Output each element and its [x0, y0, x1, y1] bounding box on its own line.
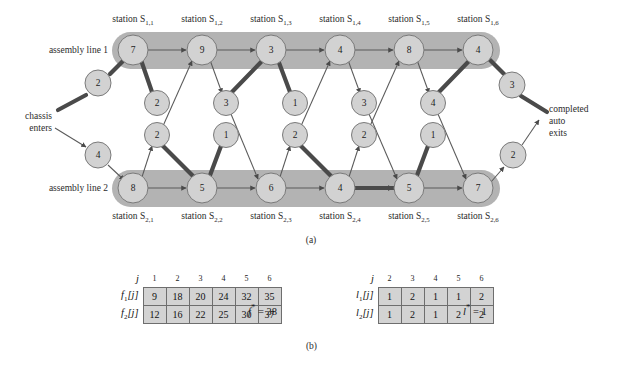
f2-cell-4: 25 [212, 305, 235, 323]
station-label-2-2: station S2,2 [181, 211, 223, 223]
l2-cell-4: 1 [424, 305, 447, 323]
f-table-header-row: j 1 2 3 4 5 6 [120, 270, 281, 287]
transfer-1to2-cost-3: 1 [293, 98, 298, 108]
l2-row-label: l2[j] [355, 305, 378, 323]
transfer-nodes-line1-to-line2: 2 3 1 3 4 [145, 91, 446, 116]
line2-station-3-time: 6 [269, 183, 274, 193]
f1-row-label: f1[j] [120, 287, 143, 305]
f-table-col-2: 2 [166, 270, 189, 287]
transfer-nodes-line2-to-line1: 2 1 2 2 1 [145, 123, 446, 148]
line1-station-3-time: 3 [269, 45, 274, 55]
f2-cell-2: 16 [166, 305, 189, 323]
transfer-2to1-cost-3: 2 [293, 130, 298, 140]
line1-station-6-time: 4 [476, 45, 481, 55]
f1-cell-3: 20 [189, 287, 212, 305]
station-label-2-3: station S2,3 [250, 211, 292, 223]
caption-a: (a) [306, 235, 317, 246]
fastest-path-highlight [58, 60, 547, 188]
line2-station-6-time: 7 [476, 183, 481, 193]
station-labels-line1: station S1,1 station S1,2 station S1,3 s… [112, 14, 499, 26]
entry-time-line2: 4 [96, 150, 101, 160]
line1-station-2-time: 9 [200, 45, 205, 55]
line2-station-5-time: 5 [407, 183, 412, 193]
l-table-col-6: 6 [470, 270, 493, 287]
station-label-2-6: station S2,6 [457, 211, 499, 223]
l1-cell-2: 1 [378, 287, 401, 305]
chassis-enters-label-line2: enters [29, 123, 52, 133]
line1-station-5-time: 8 [407, 45, 412, 55]
f-table-col-5: 5 [235, 270, 258, 287]
assembly-line-2-label: assembly line 2 [49, 183, 108, 193]
caption-b: (b) [0, 341, 623, 351]
transfer-2to1-cost-2: 1 [224, 130, 229, 140]
transfer-2to1-cost-1: 2 [155, 130, 160, 140]
f1-cell-4: 24 [212, 287, 235, 305]
l-table-j-header: j [355, 270, 378, 287]
l-table-col-5: 5 [447, 270, 470, 287]
station-label-1-3: station S1,3 [250, 14, 292, 26]
f2-cell-1: 12 [143, 305, 166, 323]
station-label-2-5: station S2,5 [388, 211, 430, 223]
l2-cell-2: 1 [378, 305, 401, 323]
f1-cell-2: 18 [166, 287, 189, 305]
l2-cell-3: 2 [401, 305, 424, 323]
f1-cell-1: 9 [143, 287, 166, 305]
station-label-1-4: station S1,4 [319, 14, 361, 26]
line1-station-1-time: 7 [131, 45, 136, 55]
transfer-1to2-cost-5: 4 [431, 98, 436, 108]
f-table-j-header: j [120, 270, 143, 287]
l-table-col-4: 4 [424, 270, 447, 287]
graph-edges [55, 50, 539, 188]
l1-cell-3: 2 [401, 287, 424, 305]
l-star-annotation: l* = 1 [463, 302, 487, 317]
completed-auto-exits-line3: exits [549, 128, 567, 138]
f-table-col-6: 6 [258, 270, 281, 287]
line2-station-4-time: 4 [338, 183, 343, 193]
l-table-header-row: j 2 3 4 5 6 [355, 270, 493, 287]
completed-auto-exits-line1: completed [549, 104, 589, 114]
station-label-1-5: station S1,5 [388, 14, 430, 26]
exit-time-line1: 3 [510, 80, 515, 90]
l1-cell-4: 1 [424, 287, 447, 305]
completed-auto-exits-line2: auto [549, 116, 566, 126]
transfer-1to2-cost-1: 2 [155, 98, 160, 108]
entry-node-line2: 4 [85, 142, 111, 168]
exit-time-line2: 2 [511, 150, 516, 160]
station-label-2-4: station S2,4 [319, 211, 361, 223]
line2-station-2-time: 5 [200, 183, 205, 193]
station-label-1-6: station S1,6 [457, 14, 499, 26]
transfer-2to1-cost-4: 2 [362, 130, 367, 140]
transfer-1to2-cost-4: 3 [362, 98, 367, 108]
line2-station-1-time: 8 [131, 183, 136, 193]
l-table-col-2: 2 [378, 270, 401, 287]
exit-node-line1: 3 [499, 72, 525, 98]
f2-row-label: f2[j] [120, 305, 143, 323]
transfer-1to2-cost-2: 3 [224, 98, 229, 108]
l1-row-label: l1[j] [355, 287, 378, 305]
chassis-enters-label-line1: chassis [25, 111, 52, 121]
transfer-2to1-cost-5: 1 [431, 130, 436, 140]
entry-time-line1: 2 [96, 78, 101, 88]
f-table-col-3: 3 [189, 270, 212, 287]
f-table-col-1: 1 [143, 270, 166, 287]
line1-station-4-time: 4 [338, 45, 343, 55]
station-label-1-1: station S1,1 [112, 14, 154, 26]
station-label-2-1: station S2,1 [112, 211, 154, 223]
figure-panel-b: j 1 2 3 4 5 6 f1[j] 9 18 20 24 32 35 f2[… [0, 258, 623, 371]
f-table-col-4: 4 [212, 270, 235, 287]
f-star-annotation: f* = 38 [248, 302, 277, 317]
station-labels-line2: station S2,1 station S2,2 station S2,3 s… [112, 211, 499, 223]
exit-node-line2: 2 [500, 142, 526, 168]
f2-cell-3: 22 [189, 305, 212, 323]
l-table-col-3: 3 [401, 270, 424, 287]
assembly-line-1-label: assembly line 1 [49, 45, 108, 55]
station-label-1-2: station S1,2 [181, 14, 223, 26]
entry-node-line1: 2 [85, 70, 111, 96]
